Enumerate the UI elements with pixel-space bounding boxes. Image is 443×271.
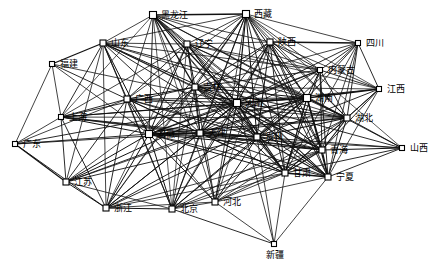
node-neimenggu[interactable] [318,68,323,73]
node-jiangxi[interactable] [377,87,382,92]
node-shanxi[interactable] [400,146,405,151]
node-tianjin[interactable] [197,130,203,136]
node-label-shanghai: 上海 [69,111,87,122]
edge-fujian-shanghai [52,64,61,117]
node-guangxi[interactable] [124,96,130,102]
node-gansu[interactable] [282,170,288,176]
node-sichuan[interactable] [356,41,361,46]
node-qinghai[interactable] [319,147,325,153]
node-label-shaanxi: 陕西 [278,36,296,47]
node-jiangsu[interactable] [63,179,69,185]
node-label-beijing: 北京 [180,203,198,214]
node-label-xizang: 西藏 [254,8,272,19]
node-guizhou[interactable] [254,134,260,140]
node-beijing[interactable] [169,206,175,212]
node-xizang[interactable] [243,11,250,18]
node-shandong[interactable] [100,40,106,46]
node-label-shanxi: 山西 [410,143,428,153]
node-label-gansu: 甘肃 [293,167,311,178]
node-shanghai[interactable] [59,115,64,120]
node-label-fujian: 福建 [60,58,78,69]
node-label-neimenggu: 内蒙古 [328,64,355,75]
node-liaoning[interactable] [184,41,190,47]
edge-xizang-guangxi [127,14,246,99]
node-heilongjiang[interactable] [150,12,157,19]
node-label-hunan: 湖南 [315,92,333,103]
edge-hebei-xinjiang [215,202,274,244]
node-anhui[interactable] [146,131,153,138]
node-label-heilongjiang: 黑龙江 [161,9,188,20]
node-hunan[interactable] [304,95,311,102]
node-jilin[interactable] [192,84,198,90]
network-diagram: 黑龙江西藏山东辽宁陕西四川福建内蒙古吉林江西广西河南湖南上海湖北安徽天津贵州青海… [0,0,443,271]
node-label-jilin: 吉林 [203,81,221,92]
node-shaanxi[interactable] [267,39,273,45]
node-fujian[interactable] [50,62,55,67]
node-label-guizhou: 贵州 [265,131,283,142]
node-xinjiang[interactable] [272,242,277,247]
edge-tianjin-jiangsu [66,133,200,182]
labels-layer: 黑龙江西藏山东辽宁陕西四川福建内蒙古吉林江西广西河南湖南上海湖北安徽天津贵州青海… [23,8,428,260]
edge-shandong-shanghai [61,43,103,117]
node-hebei[interactable] [212,199,218,205]
node-henan[interactable] [234,100,241,107]
node-label-sichuan: 四川 [366,38,384,48]
edge-fujian-guangdong [15,64,52,144]
node-label-zhejiang: 浙江 [114,202,132,213]
edge-guangxi-zhejiang [106,99,127,208]
node-label-guangdong: 广东 [23,138,41,149]
node-guangdong[interactable] [13,142,18,147]
node-label-tianjin: 天津 [208,128,226,138]
node-hubei[interactable] [344,115,350,121]
edge-anhui-jiangsu [66,134,149,182]
edge-sichuan-jiangxi [358,43,379,89]
node-label-ningxia: 宁夏 [336,171,354,182]
node-label-xinjiang: 新疆 [266,249,284,260]
node-zhejiang[interactable] [103,205,109,211]
edge-liaoning-shanghai [61,44,187,117]
node-label-shandong: 山东 [111,37,129,48]
node-label-guangxi: 广西 [135,93,153,104]
node-label-hebei: 河北 [223,196,241,207]
edge-shanghai-jiangsu [61,117,66,182]
node-label-hubei: 湖北 [355,113,373,123]
node-label-liaoning: 辽宁 [195,38,213,49]
node-label-henan: 河南 [245,97,263,108]
edge-qinghai-beijing [172,150,322,209]
node-label-qinghai: 青海 [330,144,348,155]
edge-gansu-xinjiang [274,173,285,244]
node-ningxia[interactable] [325,174,331,180]
node-label-jiangxi: 江西 [387,84,405,94]
node-label-jiangsu: 江苏 [74,176,92,187]
edge-shandong-henan [103,43,237,103]
node-label-anhui: 安徽 [157,128,175,139]
network-svg: 黑龙江西藏山东辽宁陕西四川福建内蒙古吉林江西广西河南湖南上海湖北安徽天津贵州青海… [0,0,443,271]
